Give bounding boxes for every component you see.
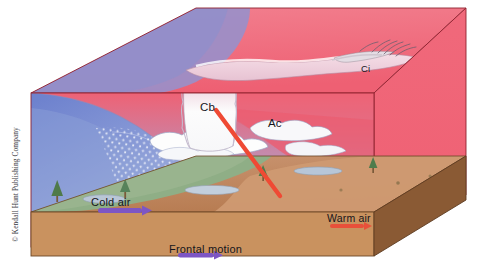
label-ci: Ci [361, 63, 370, 74]
label-cold-air: Cold air [91, 196, 131, 208]
copyright-credit: © Kendall Hunt Publishing Company [11, 115, 20, 255]
label-ac: Ac [268, 117, 282, 129]
label-frontal-motion: Frontal motion [169, 243, 242, 255]
cross-section-diagram [0, 0, 492, 279]
label-warm-air: Warm air [327, 212, 371, 224]
figure-canvas: Cb Ac Ci Cold air Warm air Frontal motio… [0, 0, 492, 279]
label-cb: Cb [200, 101, 215, 113]
